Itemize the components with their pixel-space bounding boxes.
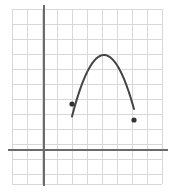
parabola-right-endpoint-marker	[131, 117, 136, 122]
parabola-chart-svg	[0, 0, 175, 192]
parabola-left-endpoint-marker	[69, 101, 74, 106]
figure-container	[0, 0, 175, 192]
